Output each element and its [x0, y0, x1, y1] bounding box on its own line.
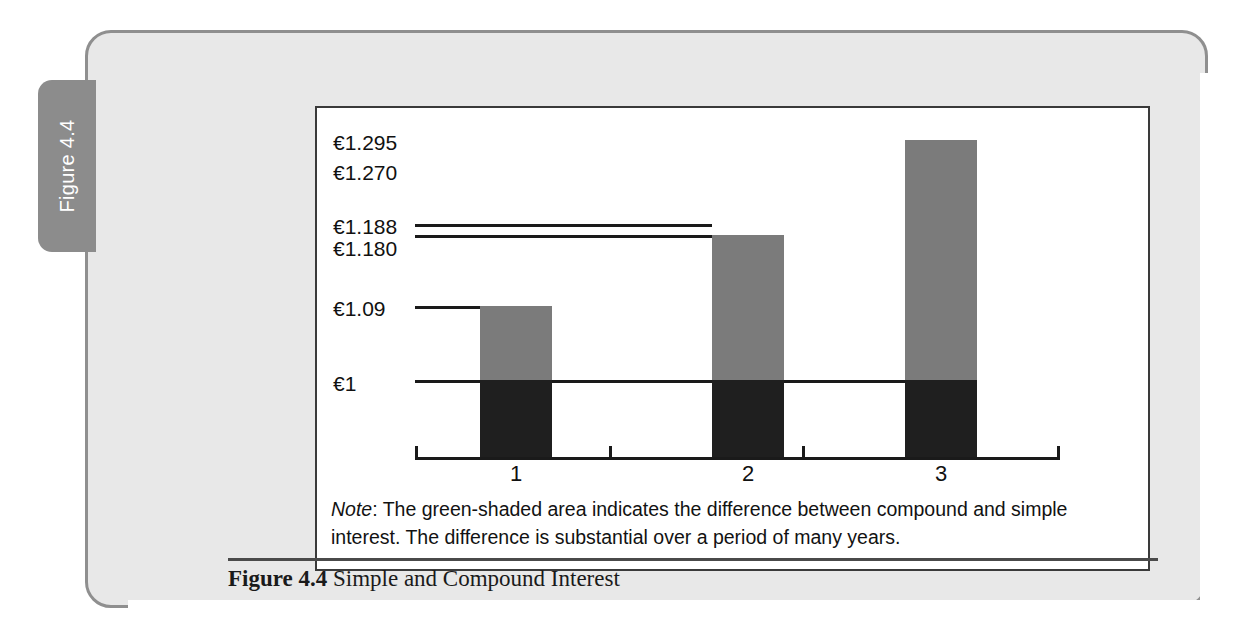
y-axis-label-1180: €1.180: [333, 237, 397, 261]
y-axis-label-109: €1.09: [333, 297, 386, 321]
bar-segment-principal-2: [712, 380, 784, 459]
bar-year-3: [905, 140, 977, 459]
x-axis-tick-3: [1057, 446, 1060, 457]
x-axis-label-2: 2: [708, 461, 788, 487]
figure-caption-number: Figure 4.4: [228, 566, 327, 591]
x-axis-label-3: 3: [901, 461, 981, 487]
bar-segment-compound-2: [712, 235, 784, 380]
caption-divider: [228, 558, 1158, 561]
x-axis-line: [415, 457, 1060, 460]
figure-panel: €1.295 €1.270 €1.188 €1.180 €1.09 €1: [85, 30, 1208, 608]
chart-note: Note: The green-shaded area indicates th…: [331, 496, 1131, 551]
chart-container: €1.295 €1.270 €1.188 €1.180 €1.09 €1: [315, 106, 1150, 571]
reference-line-1180: [415, 235, 712, 238]
note-colon: :: [372, 498, 382, 520]
bar-segment-compound-3: [905, 140, 977, 380]
bar-segment-compound-1: [480, 306, 552, 380]
x-axis-tick-1: [609, 446, 612, 457]
note-text: The green-shaded area indicates the diff…: [331, 498, 1067, 548]
x-axis-label-1: 1: [476, 461, 556, 487]
y-axis-label-1295: €1.295: [333, 131, 397, 155]
figure-side-tab-label: Figure 4.4: [56, 119, 79, 212]
panel-edge-fade-bottom: [128, 600, 1258, 609]
bar-year-2: [712, 235, 784, 459]
figure-caption: Figure 4.4 Simple and Compound Interest: [228, 566, 620, 592]
x-axis-tick-0: [415, 446, 418, 457]
note-prefix: Note: [331, 498, 372, 520]
y-axis-label-1270: €1.270: [333, 161, 397, 185]
bar-segment-principal-3: [905, 380, 977, 459]
figure-side-tab: Figure 4.4: [38, 80, 96, 252]
bar-segment-principal-1: [480, 380, 552, 459]
y-axis-label-1: €1: [333, 372, 356, 396]
panel-edge-fade-right: [1200, 73, 1209, 625]
plot-area: €1.295 €1.270 €1.188 €1.180 €1.09 €1: [317, 108, 1148, 488]
reference-line-109: [415, 306, 480, 309]
reference-line-1188: [415, 224, 712, 227]
bar-year-1: [480, 306, 552, 459]
x-axis-tick-2: [802, 446, 805, 457]
figure-caption-title: Simple and Compound Interest: [333, 566, 620, 591]
y-axis-label-1188: €1.188: [333, 215, 397, 239]
